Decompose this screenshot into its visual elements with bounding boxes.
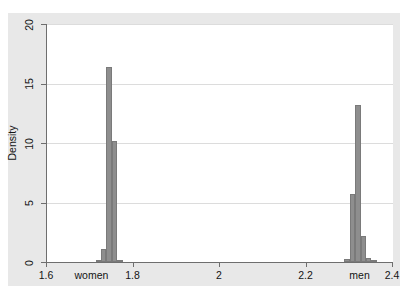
y-tick-mark (41, 203, 46, 204)
gridline (47, 203, 393, 204)
y-axis-title: Density (6, 125, 18, 160)
y-axis-line (46, 24, 47, 263)
y-tick-label-wrap: 0 (20, 262, 38, 263)
gridline (47, 24, 393, 25)
x-tick-label: 2.2 (298, 269, 313, 281)
x-tick-mark (392, 262, 393, 267)
histogram-bar (112, 141, 117, 262)
x-tick-label: 1.8 (125, 269, 140, 281)
y-tick-label-wrap: 20 (20, 24, 38, 25)
x-tick-label: 2 (216, 269, 222, 281)
y-tick-mark (41, 84, 46, 85)
x-category-label: women (74, 269, 108, 281)
x-tick-mark (133, 262, 134, 267)
y-tick-mark (41, 24, 46, 25)
y-tick-label: 15 (23, 78, 35, 90)
x-tick-mark (306, 262, 307, 267)
x-category-label: men (349, 269, 369, 281)
y-tick-label-wrap: 10 (20, 143, 38, 144)
y-tick-label: 0 (23, 260, 35, 266)
y-tick-label: 10 (23, 138, 35, 150)
y-tick-label-wrap: 15 (20, 84, 38, 85)
histogram-figure: 05101520 1.61.822.22.4womenmen Density (0, 0, 408, 294)
y-tick-label-wrap: 5 (20, 203, 38, 204)
y-tick-mark (41, 143, 46, 144)
x-tick-label: 1.6 (39, 269, 54, 281)
plot-area (46, 24, 393, 262)
x-tick-mark (219, 262, 220, 267)
x-tick-mark (46, 262, 47, 267)
gridline (47, 143, 393, 144)
y-tick-label: 5 (23, 200, 35, 206)
y-tick-label: 20 (23, 19, 35, 31)
x-tick-label: 2.4 (385, 269, 400, 281)
gridline (47, 84, 393, 85)
